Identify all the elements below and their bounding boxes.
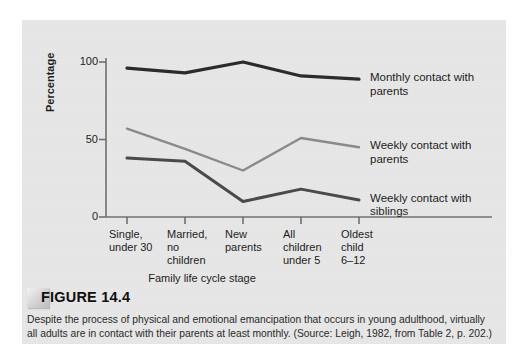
series-line-0 (127, 62, 359, 79)
line-chart: Percentage 050100 Single, under 30Marrie… (22, 20, 506, 280)
x-category-label: New parents (225, 228, 262, 254)
series-line-2 (127, 158, 359, 201)
figure-panel: Percentage 050100 Single, under 30Marrie… (22, 20, 506, 344)
series-line-1 (127, 129, 359, 171)
y-tick-label: 0 (52, 210, 98, 222)
x-category-label: Married, no children (167, 228, 207, 267)
chart-series-lines (127, 62, 359, 202)
figure-number-title: FIGURE 14.4 (41, 289, 130, 305)
figure-caption-text: Despite the process of physical and emot… (27, 313, 497, 340)
x-axis-ticks (127, 217, 359, 224)
x-category-label: Single, under 30 (109, 228, 152, 254)
x-category-label: All children under 5 (283, 228, 322, 267)
y-tick-label: 50 (52, 133, 98, 145)
legend-label-1: Weekly contact with parents (370, 139, 471, 166)
legend-label-0: Monthly contact with parents (370, 71, 474, 98)
y-axis-ticks (99, 62, 106, 217)
x-category-label: Oldest child 6–12 (341, 228, 373, 267)
figure-caption-block: FIGURE 14.4 Despite the process of physi… (22, 283, 506, 344)
figure-page: Percentage 050100 Single, under 30Marrie… (0, 0, 531, 344)
y-tick-label: 100 (52, 55, 98, 67)
legend-label-2: Weekly contact with siblings (370, 192, 471, 219)
